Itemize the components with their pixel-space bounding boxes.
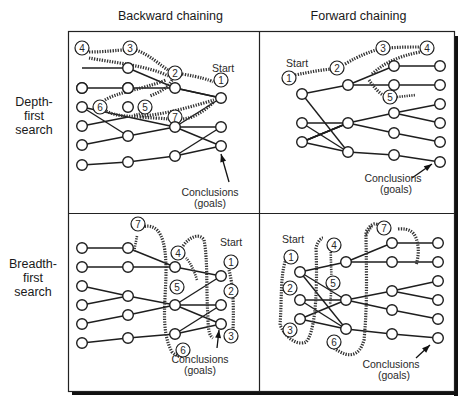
order-number: 3 [287,325,293,336]
start-label: Start [286,57,308,69]
graph-node [77,243,88,254]
graph-node [123,131,134,142]
order-number: 7 [135,219,141,230]
graph-node [341,257,352,268]
order-number: 2 [172,68,178,79]
order-number: 5 [142,102,148,113]
search-order-marker: 5 [170,280,184,294]
graph-node [216,319,227,330]
graph-node [77,262,88,273]
graph-node [170,151,181,162]
search-order-marker: 5 [383,90,397,104]
order-number: 3 [127,43,133,54]
graph-node [295,295,306,306]
search-order-marker: 2 [330,61,344,75]
graph-node [170,83,181,94]
graph-node [170,262,181,273]
graph-node [435,137,446,148]
search-order-marker: 4 [420,41,434,55]
search-order-marker: 2 [283,281,297,295]
graph-node [387,329,398,340]
graph-node [170,329,181,340]
graph-node [123,83,134,94]
graph-node [77,338,88,349]
graph-node [387,238,398,249]
start-label: Start [212,62,234,74]
graph-node [433,333,444,344]
graph-node [77,140,88,151]
order-number: 5 [174,282,180,293]
graph-node [387,305,398,316]
graph-node [123,333,134,344]
graph-node [435,118,446,129]
graph-node [389,128,400,139]
search-order-marker: 4 [75,41,89,55]
order-number: 5 [387,92,393,103]
order-number: 6 [331,337,337,348]
graph-node [435,157,446,168]
diagram-canvas: 4321657StartConclusions(goals)12345Start… [0,0,467,405]
graph-node [170,300,181,311]
goals-label: (goals) [184,364,216,376]
graph-node [216,122,227,133]
order-number: 4 [175,248,181,259]
order-number: 3 [228,331,234,342]
graph-node [343,118,354,129]
order-number: 1 [286,73,292,84]
search-order-marker: 7 [377,221,391,235]
graph-node [343,80,354,91]
graph-node [77,281,88,292]
search-order-marker: 7 [131,217,145,231]
graph-node [77,121,88,132]
order-number: 2 [334,63,340,74]
graph-node [389,150,400,161]
order-number: 1 [228,257,234,268]
graph-node [123,102,134,113]
graph-node [216,300,227,311]
order-number: 4 [331,240,337,251]
search-order-marker: 4 [171,246,185,260]
search-order-marker: 1 [284,250,298,264]
graph-node [216,271,227,282]
search-order-marker: 1 [282,71,296,85]
order-number: 7 [381,223,387,234]
graph-node [435,99,446,110]
order-number: 4 [424,43,430,54]
order-number: 6 [97,102,103,113]
graph-node [123,262,134,273]
graph-node [389,80,400,91]
search-order-marker: 5 [326,276,340,290]
graph-node [433,314,444,325]
graph-node [433,295,444,306]
graph-node [341,295,352,306]
graph-node [433,257,444,268]
goals-label: (goals) [194,197,226,209]
search-order-marker: 6 [93,100,107,114]
search-order-marker: 2 [224,284,238,298]
graph-node [77,160,88,171]
graph-node [297,137,308,148]
graph-node [435,80,446,91]
start-label: Start [220,236,242,248]
search-order-marker: 3 [376,41,390,55]
search-order-marker: 6 [327,335,341,349]
search-order-marker: 1 [224,255,238,269]
graph-node [123,291,134,302]
graph-node [123,63,134,74]
graph-node [295,314,306,325]
graph-node [77,300,88,311]
search-order-marker: 3 [123,41,137,55]
graph-node [77,319,88,330]
graph-node [216,93,227,104]
graph-node [433,238,444,249]
order-number: 7 [172,112,178,123]
graph-node [170,122,181,133]
goals-label: (goals) [380,183,412,195]
graph-node [435,61,446,72]
start-label: Start [282,233,304,245]
goals-label: (goals) [378,369,410,381]
graph-node [77,102,88,113]
search-order-marker: 1 [214,73,228,87]
graph-node [389,108,400,119]
graph-node [387,257,398,268]
